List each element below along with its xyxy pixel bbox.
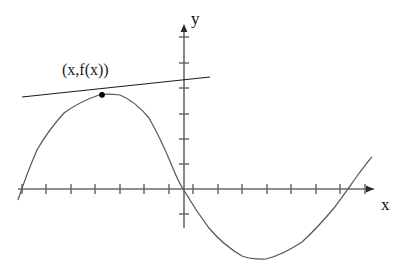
x-axis-group [18, 184, 374, 194]
y-axis-label: y [191, 10, 200, 27]
tangent-point-label: (x,f(x)) [62, 62, 109, 78]
function-graph-svg [0, 0, 402, 276]
tangent-point-marker [99, 92, 105, 98]
y-axis-arrowhead [181, 24, 188, 32]
figure-canvas: y x (x,f(x)) [0, 0, 402, 276]
x-axis-arrowhead [366, 186, 374, 193]
function-curve [18, 94, 372, 259]
x-axis-label: x [381, 196, 390, 213]
